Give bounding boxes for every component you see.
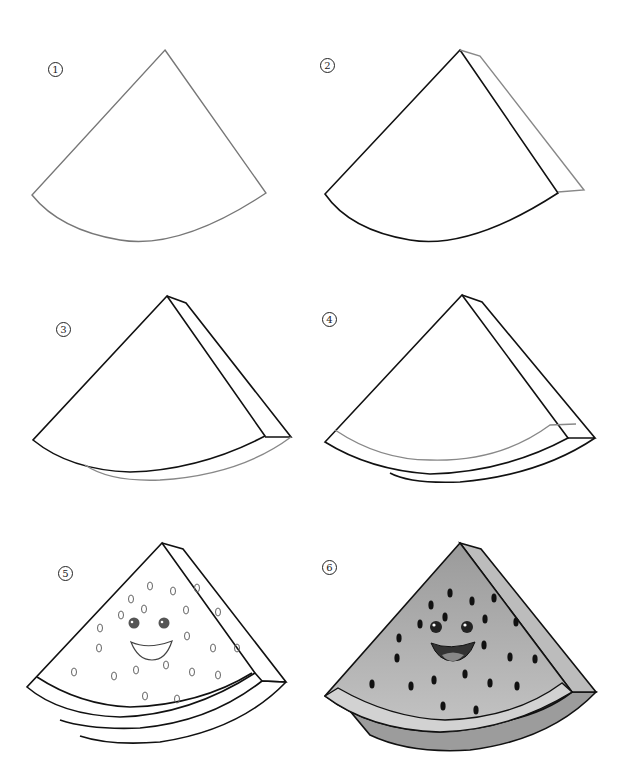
seed-outlines bbox=[72, 582, 240, 703]
step-6-panel: 6 bbox=[310, 510, 620, 778]
slice-rind-line-drawing bbox=[310, 260, 620, 510]
step-5-panel: 5 bbox=[0, 510, 310, 778]
slice-side-thickness-drawing bbox=[0, 0, 620, 260]
face bbox=[129, 618, 173, 661]
slice-bottom-thickness-drawing bbox=[0, 260, 310, 510]
step-3-panel: 3 bbox=[0, 260, 310, 510]
step-2-panel: 2 bbox=[0, 0, 620, 260]
step-4-panel: 4 bbox=[310, 260, 620, 510]
slice-face-and-seeds-drawing bbox=[0, 510, 310, 778]
colored-watermelon-drawing bbox=[310, 510, 620, 778]
